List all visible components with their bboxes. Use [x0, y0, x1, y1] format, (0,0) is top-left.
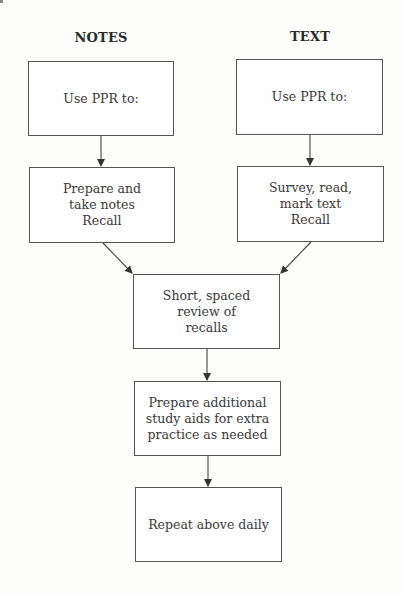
node-text-survey: Survey, read, mark text Recall: [237, 166, 384, 242]
node-text: Short, spaced: [163, 288, 250, 304]
node-text-use-ppr: Use PPR to:: [236, 59, 383, 135]
node-text: Survey, read,: [269, 180, 352, 196]
column-heading-notes: NOTES: [41, 30, 161, 45]
node-text: study aids for extra: [146, 411, 269, 427]
node-text: review of: [177, 304, 236, 320]
node-notes-prepare: Prepare and take notes Recall: [29, 167, 175, 243]
arrow-text-survey-to-review: [281, 242, 311, 273]
node-text: Repeat above daily: [148, 517, 269, 533]
node-text: Recall: [82, 213, 121, 229]
node-text: Prepare and: [63, 181, 141, 197]
node-text: Use PPR to:: [63, 91, 138, 107]
scan-artifact: [0, 0, 3, 3]
arrow-notes-prepare-to-review: [103, 243, 132, 273]
flowchart-canvas: NOTES TEXT Use PPR to: Use PPR to: Prepa…: [0, 0, 403, 595]
node-text: Recall: [291, 212, 330, 228]
node-text: Prepare additional: [148, 395, 266, 411]
node-notes-use-ppr: Use PPR to:: [28, 61, 174, 136]
node-text: take notes: [69, 197, 135, 213]
node-study-aids: Prepare additional study aids for extra …: [134, 381, 281, 456]
node-text: recalls: [185, 320, 227, 336]
node-text: mark text: [280, 196, 341, 212]
node-text: Use PPR to:: [272, 89, 347, 105]
node-repeat: Repeat above daily: [135, 487, 282, 562]
node-text: practice as needed: [148, 427, 268, 443]
column-heading-text: TEXT: [250, 29, 370, 44]
node-review: Short, spaced review of recalls: [133, 274, 280, 349]
